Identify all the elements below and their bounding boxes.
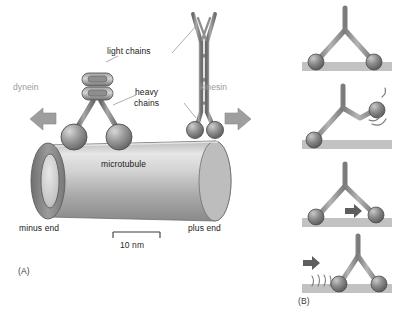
plus-direction-arrow-icon	[225, 108, 251, 130]
scale-bar-icon	[113, 232, 160, 238]
label-light-chains: light chains	[107, 47, 151, 57]
panel-b-frame-4	[302, 236, 392, 293]
panel-b-frame-3	[302, 164, 392, 227]
label-dynein: dynein	[13, 83, 39, 93]
microtubule-cylinder	[31, 141, 231, 221]
label-scale-bar: 10 nm	[120, 241, 144, 251]
dynein-motor	[61, 73, 132, 150]
landing-arrow-icon	[303, 256, 320, 270]
label-minus-end: minus end	[19, 224, 59, 234]
label-panel-b: (B)	[298, 297, 310, 307]
step-arrow-icon	[345, 204, 362, 218]
panel-b-frame-2	[302, 86, 392, 149]
label-heavy-chains-line1: heavy	[135, 88, 158, 98]
label-plus-end: plus end	[188, 224, 221, 234]
label-kinesin: kinesin	[200, 83, 227, 93]
figure-canvas	[0, 0, 400, 314]
dynein-head-left	[61, 124, 87, 150]
panel-b-frame-1	[302, 8, 392, 71]
kinesin-head-left	[187, 122, 204, 139]
label-heavy-chains-line2: chains	[134, 99, 159, 109]
dynein-head-right	[106, 124, 132, 150]
kinesin-motor	[187, 14, 224, 139]
label-microtubule: microtubule	[101, 160, 146, 170]
minus-direction-arrow-icon	[30, 108, 56, 130]
motor-protein-figure: light chains heavy chains dynein kinesin…	[0, 0, 400, 314]
label-panel-a: (A)	[18, 267, 30, 277]
dynein-light-chain-stack	[82, 73, 113, 100]
kinesin-head-right	[207, 122, 224, 139]
